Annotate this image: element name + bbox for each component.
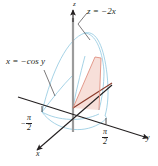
tick-label-negative-half-pi: − π 2 [21,114,32,132]
figure-container: z z = −2x x = −cos y x y − π 2 π 2 [0,0,158,166]
plane-region-fill [73,57,101,110]
cylinder-equation-label: x = −cos y [6,57,45,66]
fraction-numerator: π [102,128,108,136]
fraction: π 2 [102,128,108,146]
tick-label-positive-half-pi: π 2 [102,128,108,146]
plane-label-leader-line [78,13,90,40]
z-axis-label: z [73,1,76,8]
fraction: π 2 [26,114,32,132]
fraction-numerator: π [26,114,32,122]
x-axis-label: x [36,150,40,158]
tick-sign: − [21,119,26,128]
x-axis [37,85,112,150]
fraction-denominator: 2 [102,138,108,146]
cylinder-label-leader-line [44,70,55,96]
fraction-denominator: 2 [26,124,32,132]
3d-figure-svg [0,0,158,166]
plane-equation-label: z = −2x [87,7,116,16]
y-axis-label: y [146,134,150,142]
